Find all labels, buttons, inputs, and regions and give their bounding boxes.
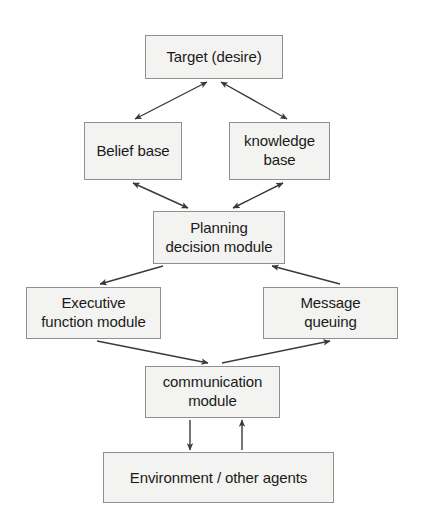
node-environment-other-agents[interactable]: Environment / other agents [103,452,334,503]
node-target[interactable]: Target (desire) [145,35,283,79]
node-label: Belief base [96,142,169,160]
node-planning-decision-module[interactable]: Planning decision module [153,211,285,264]
node-belief-base[interactable]: Belief base [84,122,182,180]
node-communication-module[interactable]: communication module [145,366,280,418]
edge-communication-message [222,341,330,363]
node-message-queuing[interactable]: Message queuing [263,287,398,339]
edge-knowledge-planning [233,183,283,208]
edge-message-planning [272,266,340,284]
node-label: Target (desire) [166,48,261,66]
edge-planning-executive [100,266,163,284]
edge-executive-communication [97,341,208,363]
node-label: knowledge base [244,132,315,170]
node-executive-function-module[interactable]: Executive function module [26,287,161,339]
node-label: Message queuing [300,294,360,332]
diagram-canvas: Target (desire)Belief baseknowledge base… [0,0,425,526]
edge-target-knowledge [221,82,287,119]
node-label: Executive function module [41,294,145,332]
node-label: communication module [163,373,263,411]
node-knowledge-base[interactable]: knowledge base [229,122,330,180]
edge-target-belief [135,82,207,119]
edge-belief-planning [133,183,188,208]
node-label: Environment / other agents [130,469,308,487]
node-label: Planning decision module [166,219,273,257]
